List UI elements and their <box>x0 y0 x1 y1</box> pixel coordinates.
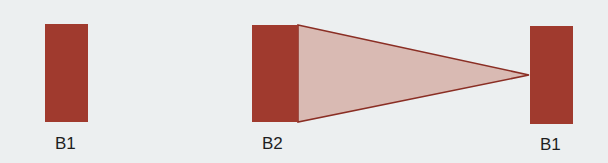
label-b1-right: B1 <box>540 135 561 155</box>
label-b1-left: B1 <box>55 134 76 154</box>
block-b1-right <box>530 26 573 124</box>
block-b2 <box>252 25 298 122</box>
projection-cone <box>298 25 529 122</box>
label-b2: B2 <box>262 134 283 154</box>
diagram-canvas <box>0 0 608 163</box>
block-b1-left <box>45 24 88 122</box>
